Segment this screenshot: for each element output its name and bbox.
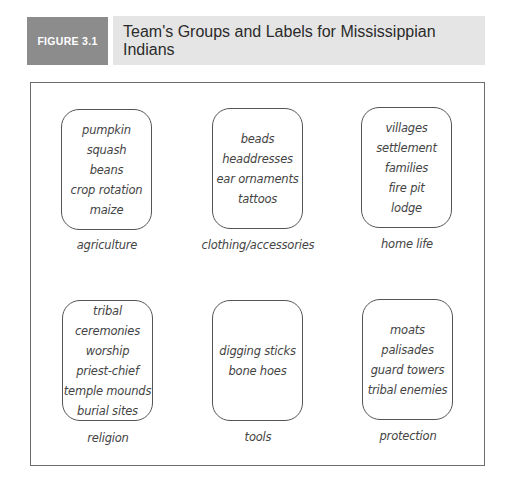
group-item: ceremonies bbox=[75, 321, 140, 341]
group-item: priest-chief bbox=[76, 361, 138, 381]
figure-title-text: Team's Groups and Labels for Mississippi… bbox=[123, 23, 485, 59]
group-item: tribal bbox=[93, 301, 122, 321]
group-item: squash bbox=[87, 140, 127, 160]
group-label-tools: tools bbox=[183, 430, 333, 444]
group-box-religion: tribal ceremonies worship priest-chief t… bbox=[62, 300, 153, 421]
group-item: settlement bbox=[376, 138, 436, 158]
group-item: beads bbox=[241, 129, 275, 149]
group-label-clothing-accessories: clothing/accessories bbox=[183, 238, 333, 252]
group-item: ear ornaments bbox=[216, 169, 298, 189]
group-item: palisades bbox=[381, 340, 433, 360]
group-item: pumpkin bbox=[82, 120, 131, 140]
group-item: guard towers bbox=[371, 360, 445, 380]
group-item: maize bbox=[90, 200, 124, 220]
group-item: tattoos bbox=[238, 189, 277, 209]
group-box-home-life: villages settlement families fire pit lo… bbox=[361, 107, 452, 228]
group-item: temple mounds bbox=[64, 381, 152, 401]
group-item: headdresses bbox=[222, 149, 293, 169]
group-label-protection: protection bbox=[333, 429, 483, 443]
group-box-agriculture: pumpkin squash beans crop rotation maize bbox=[61, 109, 152, 230]
group-item: beans bbox=[90, 160, 124, 180]
figure-number-label: FIGURE 3.1 bbox=[27, 17, 108, 65]
group-box-protection: moats palisades guard towers tribal enem… bbox=[362, 299, 453, 420]
group-label-religion: religion bbox=[33, 431, 183, 445]
group-item: bone hoes bbox=[229, 361, 287, 381]
group-label-home-life: home life bbox=[332, 237, 482, 251]
group-item: burial sites bbox=[77, 401, 138, 421]
group-item: crop rotation bbox=[71, 180, 143, 200]
group-item: tribal enemies bbox=[368, 380, 448, 400]
group-item: lodge bbox=[391, 198, 422, 218]
group-label-agriculture: agriculture bbox=[32, 238, 182, 252]
group-item: families bbox=[385, 158, 428, 178]
group-box-tools: digging sticks bone hoes bbox=[212, 300, 303, 421]
group-item: worship bbox=[86, 341, 130, 361]
group-item: fire pit bbox=[388, 178, 424, 198]
group-item: digging sticks bbox=[219, 341, 295, 361]
group-item: moats bbox=[390, 320, 425, 340]
group-item: villages bbox=[385, 118, 427, 138]
group-box-clothing-accessories: beads headdresses ear ornaments tattoos bbox=[212, 108, 303, 229]
figure-title: Team's Groups and Labels for Mississippi… bbox=[113, 16, 485, 65]
